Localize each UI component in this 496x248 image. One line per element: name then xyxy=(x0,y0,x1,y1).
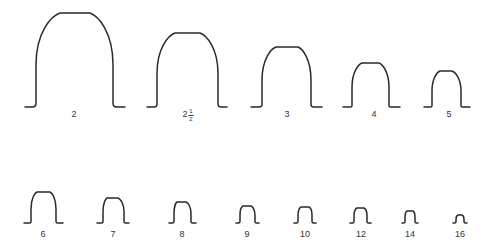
tooth-profile xyxy=(236,206,259,223)
tooth-label: 9 xyxy=(244,230,249,239)
tooth-label-whole: 6 xyxy=(40,229,45,239)
tooth-label-fraction: 12 xyxy=(189,108,194,122)
tooth-profile xyxy=(147,33,227,107)
tooth-label: 12 xyxy=(356,230,366,239)
tooth-label: 2 xyxy=(71,110,76,119)
tooth-profile xyxy=(97,198,129,223)
tooth-label: 5 xyxy=(446,110,451,119)
tooth-label: 14 xyxy=(405,230,415,239)
tooth-label-whole: 12 xyxy=(356,229,366,239)
tooth-profile xyxy=(24,192,63,223)
tooth-label-whole: 4 xyxy=(371,109,376,119)
tooth-profile xyxy=(343,63,400,107)
tooth-label-whole: 7 xyxy=(110,229,115,239)
tooth-label-whole: 5 xyxy=(446,109,451,119)
tooth-profile xyxy=(350,208,371,223)
tooth-label-whole: 8 xyxy=(179,229,184,239)
tooth-label: 10 xyxy=(300,230,310,239)
tooth-label: 6 xyxy=(40,230,45,239)
tooth-label: 8 xyxy=(179,230,184,239)
tooth-profile xyxy=(294,207,316,223)
gear-tooth-diagram xyxy=(0,0,496,248)
tooth-profile xyxy=(402,211,418,223)
tooth-profile xyxy=(424,71,470,107)
tooth-label-whole: 2 xyxy=(182,109,187,119)
tooth-profile xyxy=(251,47,322,107)
tooth-label-whole: 10 xyxy=(300,229,310,239)
tooth-label: 3 xyxy=(284,110,289,119)
tooth-label: 7 xyxy=(110,230,115,239)
tooth-label: 212 xyxy=(182,108,193,122)
tooth-label-whole: 3 xyxy=(284,109,289,119)
tooth-profile xyxy=(169,202,196,223)
tooth-label: 16 xyxy=(455,230,465,239)
tooth-label-whole: 14 xyxy=(405,229,415,239)
tooth-label: 4 xyxy=(371,110,376,119)
tooth-label-whole: 9 xyxy=(244,229,249,239)
tooth-label-whole: 2 xyxy=(71,109,76,119)
tooth-profile xyxy=(25,13,125,107)
tooth-profile xyxy=(453,215,467,223)
tooth-label-whole: 16 xyxy=(455,229,465,239)
